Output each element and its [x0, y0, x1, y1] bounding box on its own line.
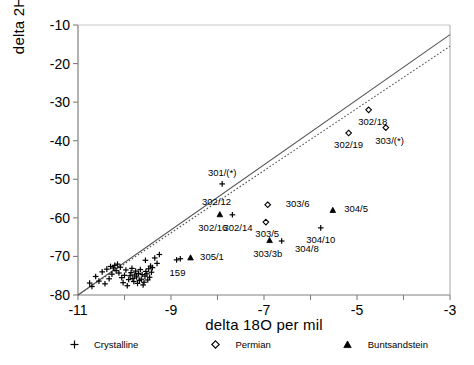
data-point-permian — [265, 202, 271, 208]
chart-legend: CrystallinePermianBuntsandstein — [68, 339, 428, 350]
data-point-crystalline — [106, 276, 112, 282]
y-tick-label: -30 — [50, 94, 70, 110]
triangle-marker-icon — [342, 340, 354, 349]
point-annotation: 302/12 — [202, 197, 231, 207]
data-point-crystalline — [102, 281, 108, 287]
y-tick-label: -50 — [50, 171, 70, 187]
data-point-crystalline — [104, 266, 110, 272]
x-tick-label: -5 — [351, 302, 363, 318]
data-point-crystalline — [93, 274, 99, 280]
point-annotation: 303/6 — [286, 199, 310, 209]
diamond-marker-icon — [209, 340, 221, 349]
x-tick-label: -3 — [444, 302, 456, 318]
x-tick-label: -11 — [68, 302, 87, 318]
point-annotation: 302/18 — [358, 117, 387, 127]
data-point-crystalline — [140, 282, 146, 288]
data-point-crystalline — [118, 264, 124, 270]
data-point-crystalline — [178, 256, 184, 262]
data-point-crystalline — [154, 261, 160, 267]
point-annotation: 301/(*) — [208, 168, 237, 178]
legend-entry-buntsandstein: Buntsandstein — [342, 339, 428, 350]
data-point-crystalline — [230, 212, 236, 218]
point-annotation: 303/(*) — [375, 136, 404, 146]
data-point-crystalline — [219, 181, 225, 187]
data-point-crystalline — [143, 257, 149, 263]
point-annotation: 303/3b — [253, 249, 282, 259]
y-tick-label: -70 — [50, 248, 70, 264]
data-point-crystalline — [129, 266, 135, 272]
legend-label: Permian — [235, 339, 270, 350]
legend-entry-permian: Permian — [209, 339, 270, 350]
y-tick-label: -10 — [50, 17, 70, 33]
data-point-crystalline — [124, 283, 130, 289]
data-point-crystalline — [152, 255, 158, 261]
data-point-buntsandstein — [188, 255, 194, 260]
data-point-crystalline — [279, 238, 285, 244]
data-point-permian — [366, 107, 372, 113]
data-point-buntsandstein — [217, 212, 223, 217]
y-tick-label: -60 — [50, 210, 70, 226]
plus-marker-icon — [68, 340, 80, 349]
point-annotation: 302/19 — [334, 140, 363, 150]
data-point-permian — [263, 219, 269, 225]
point-annotation: 159 — [170, 268, 186, 278]
point-annotation: 302/14 — [223, 223, 252, 233]
legend-label: Buntsandstein — [368, 339, 428, 350]
data-point-permian — [346, 130, 352, 136]
data-point-crystalline — [157, 252, 163, 258]
point-annotation: 304/5 — [344, 204, 368, 214]
x-tick-label: -9 — [165, 302, 177, 318]
point-annotation: 303/5 — [255, 229, 279, 239]
data-point-crystalline — [123, 267, 129, 273]
data-point-crystalline — [318, 225, 324, 231]
data-point-buntsandstein — [330, 207, 336, 212]
legend-entry-crystalline: Crystalline — [68, 339, 138, 350]
point-annotation: 304/8 — [295, 244, 319, 254]
point-annotation: 305/1 — [200, 252, 224, 262]
data-point-crystalline — [99, 269, 105, 275]
x-tick-label: -7 — [258, 302, 270, 318]
scatter-chart-figure: delta 2H per mil delta 18O per mil -11-9… — [0, 0, 474, 365]
legend-label: Crystalline — [94, 339, 138, 350]
data-point-crystalline — [120, 280, 126, 286]
y-tick-label: -80 — [50, 287, 70, 303]
y-tick-label: -20 — [50, 56, 70, 72]
y-tick-label: -40 — [50, 133, 70, 149]
data-point-crystalline — [174, 257, 180, 263]
